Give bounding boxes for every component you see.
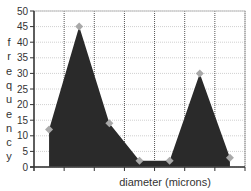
y-label-letter: q [6,79,12,91]
y-tick-label: 45 [17,21,29,32]
y-label-letter: c [6,136,12,148]
y-axis-label: frequency [6,36,12,162]
y-label-letter: n [6,122,12,134]
y-tick-label: 0 [22,162,28,173]
x-axis-label: diameter (microns) [119,176,211,188]
y-tick-label: 5 [22,146,28,157]
y-tick-label: 35 [17,52,29,63]
y-tick-label: 50 [17,6,29,17]
y-tick-label: 15 [17,115,29,126]
chart: 05101520253035404550 frequency diameter … [0,0,251,191]
y-label-letter: u [6,93,12,105]
y-tick-label: 20 [17,99,29,110]
frequency-area [49,27,230,167]
y-label-letter: e [6,108,12,120]
y-label-letter: e [6,65,12,77]
y-tick-label: 10 [17,130,29,141]
y-label-letter: r [7,50,11,62]
y-label-letter: f [7,36,11,48]
y-tick-label: 25 [17,84,29,95]
y-tick-label: 30 [17,68,29,79]
data-point-marker [196,69,204,77]
data-point-marker [75,23,83,31]
y-tick-labels: 05101520253035404550 [17,6,29,173]
area-chart: 05101520253035404550 frequency diameter … [0,0,251,191]
y-label-letter: y [6,150,12,162]
y-tick-label: 40 [17,37,29,48]
